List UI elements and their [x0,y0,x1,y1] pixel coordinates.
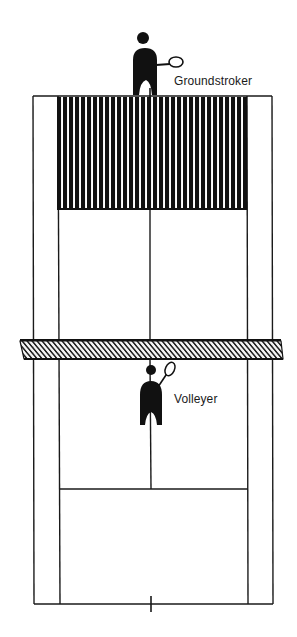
volleyer-label: Volleyer [174,392,218,406]
groundstroker-label: Groundstroker [174,74,252,88]
shaded-target-zone [57,97,247,209]
bottom-center-service-line [150,359,151,489]
volleyer-racket [163,361,177,377]
court-svg [0,0,297,637]
net [20,340,283,359]
groundstroker-racket [169,57,183,67]
volleyer-head [146,365,156,375]
groundstroker-body [133,48,157,95]
volleyer-figure [140,361,177,425]
groundstroker-head [137,32,149,44]
